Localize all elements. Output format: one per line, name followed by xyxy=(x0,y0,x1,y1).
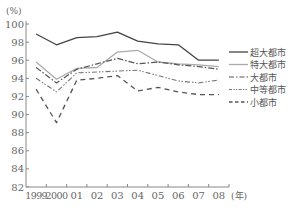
x-tick-label: 08 xyxy=(212,190,225,201)
x-tick-label: 06 xyxy=(172,190,185,201)
series-line-3 xyxy=(36,70,219,92)
x-tick-label: 01 xyxy=(70,190,83,201)
x-tick-label: 2000 xyxy=(46,190,68,201)
series-lines xyxy=(36,32,219,123)
y-tick-label: 98 xyxy=(11,37,24,48)
legend-label-0: 超大都市 xyxy=(250,47,286,58)
x-axis-unit-label: (年) xyxy=(231,190,247,201)
y-tick-label: 88 xyxy=(11,127,24,138)
x-tick-label: 05 xyxy=(152,190,165,201)
x-tick-label: 07 xyxy=(192,190,205,201)
legend-label-3: 中等都市 xyxy=(250,84,286,95)
axes: 828486889092949698100(%)1999200001020304… xyxy=(5,6,247,201)
y-tick-label: 94 xyxy=(11,73,24,84)
legend-label-2: 大都市 xyxy=(250,72,277,83)
y-tick-label: 84 xyxy=(11,163,24,174)
y-tick-label: 82 xyxy=(11,182,24,193)
x-tick-label: 04 xyxy=(131,190,144,201)
y-tick-label: 90 xyxy=(11,109,24,120)
series-line-2 xyxy=(36,58,219,83)
series-line-0 xyxy=(36,32,219,60)
y-axis-unit-label: (%) xyxy=(6,6,22,16)
x-tick-label: 03 xyxy=(111,190,124,201)
y-tick-label: 86 xyxy=(11,145,24,156)
series-line-4 xyxy=(36,76,219,123)
legend-label-4: 小都市 xyxy=(250,97,277,108)
x-tick-label: 1999 xyxy=(25,190,47,201)
line-chart: 828486889092949698100(%)1999200001020304… xyxy=(0,0,292,208)
legend: 超大都市特大都市大都市中等都市小都市 xyxy=(229,47,286,108)
y-tick-label: 92 xyxy=(11,91,24,102)
y-tick-label: 96 xyxy=(11,55,24,66)
legend-label-1: 特大都市 xyxy=(250,59,286,70)
y-tick-label: 100 xyxy=(5,19,24,30)
x-tick-label: 02 xyxy=(91,190,104,201)
